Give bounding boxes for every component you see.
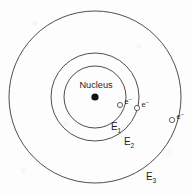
electron-shell-1: e – xyxy=(117,96,131,108)
shell-label-e1: E 1 xyxy=(111,121,122,134)
electron-shell-2-marker xyxy=(134,105,139,110)
electron-shell-1-superscript: – xyxy=(129,96,132,102)
shell-3-label-subscript: 3 xyxy=(153,177,157,184)
electron-shell-3-superscript: – xyxy=(181,111,184,117)
atomic-model-canvas: Nucleus e – e – e – E 1 E 2 xyxy=(0,0,193,194)
electron-shell-1-marker xyxy=(117,102,122,107)
nucleus-dot xyxy=(91,93,98,100)
shell-label-e2: E 2 xyxy=(124,136,135,149)
shell-1-label-subscript: 1 xyxy=(118,127,122,134)
shell-2-label-subscript: 2 xyxy=(131,142,135,149)
electron-shell-3-marker xyxy=(169,117,174,122)
shell-label-e3: E 3 xyxy=(146,171,157,184)
electron-shell-2: e – xyxy=(134,99,148,111)
electron-shell-3: e – xyxy=(169,111,183,123)
bohr-atomic-model-figure: Nucleus e – e – e – E 1 E 2 xyxy=(0,0,193,194)
electron-shell-2-superscript: – xyxy=(146,99,149,105)
nucleus-label: Nucleus xyxy=(79,80,113,90)
